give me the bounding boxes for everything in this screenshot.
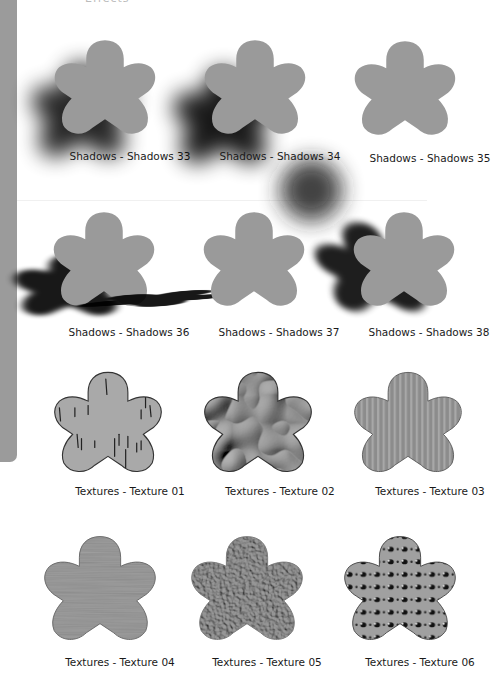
flower-shape <box>55 36 155 136</box>
flower-shape <box>354 208 454 308</box>
swatch-caption: Textures - Texture 01 <box>45 485 215 497</box>
swatch-caption: Textures - Texture 04 <box>35 656 205 668</box>
flower-shape <box>204 208 304 308</box>
flower-shape <box>192 532 302 642</box>
swatch-caption: Textures - Texture 05 <box>182 656 352 668</box>
swatch-caption: Textures - Texture 06 <box>335 656 495 668</box>
flower-shape <box>355 37 455 137</box>
swatch-caption: Textures - Texture 02 <box>195 485 365 497</box>
swatch-caption: Shadows - Shadows 34 <box>195 150 365 162</box>
flower-shape <box>205 36 305 136</box>
flower-shape <box>205 368 311 474</box>
flower-shape <box>54 208 154 308</box>
swatch-caption: Shadows - Shadows 37 <box>194 326 364 338</box>
swatch-caption: Shadows - Shadows 35 <box>345 152 495 164</box>
flower-shape <box>355 368 461 474</box>
swatch-caption: Shadows - Shadows 36 <box>44 326 214 338</box>
side-color-bar <box>0 0 17 462</box>
flower-shape <box>45 532 155 642</box>
swatch-caption: Shadows - Shadows 38 <box>344 326 495 338</box>
row-divider <box>17 200 427 201</box>
flower-shape <box>55 368 161 474</box>
page-heading-cropped: Effects <box>85 0 130 5</box>
flower-shape <box>345 532 455 642</box>
swatch-caption: Textures - Texture 03 <box>345 485 495 497</box>
